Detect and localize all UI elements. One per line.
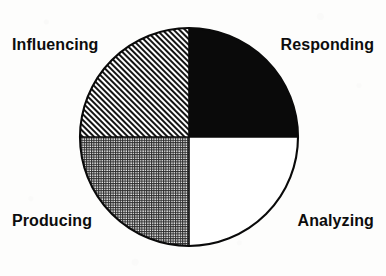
label-responding: Responding (281, 37, 374, 53)
label-analyzing: Analyzing (298, 213, 374, 229)
label-producing: Producing (12, 213, 92, 229)
pie-chart-svg (79, 27, 299, 247)
label-influencing: Influencing (12, 37, 98, 53)
quadrant-circle-diagram: Influencing Responding Producing Analyzi… (0, 0, 386, 276)
pie-chart (79, 27, 299, 247)
